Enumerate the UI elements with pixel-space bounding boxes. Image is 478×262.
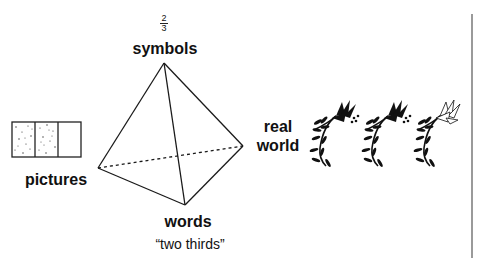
tetrahedron-icon [98,63,243,205]
right-divider-line [471,14,473,258]
real-world-sprig-3-icon [413,100,460,168]
tetrahedron-diagram [0,0,478,262]
pictures-icon [12,122,81,157]
real-world-sprig-1-icon [309,100,359,168]
real-world-sprig-2-icon [361,100,411,168]
